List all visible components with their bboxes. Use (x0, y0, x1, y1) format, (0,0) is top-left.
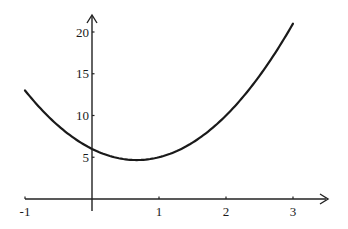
function-plot: -11235101520 (0, 0, 348, 229)
tick-labels: -11235101520 (20, 25, 297, 220)
y-tick-label: 20 (76, 25, 89, 40)
x-tick-label: 2 (223, 204, 230, 219)
axes (25, 15, 328, 211)
x-tick-label: 3 (290, 204, 297, 219)
y-tick-label: 15 (76, 66, 89, 81)
x-tick-label: -1 (20, 204, 31, 219)
function-curve (25, 24, 293, 160)
ticks (25, 32, 293, 199)
y-tick-label: 5 (83, 150, 90, 165)
x-tick-label: 1 (156, 204, 163, 219)
y-tick-label: 10 (76, 108, 89, 123)
